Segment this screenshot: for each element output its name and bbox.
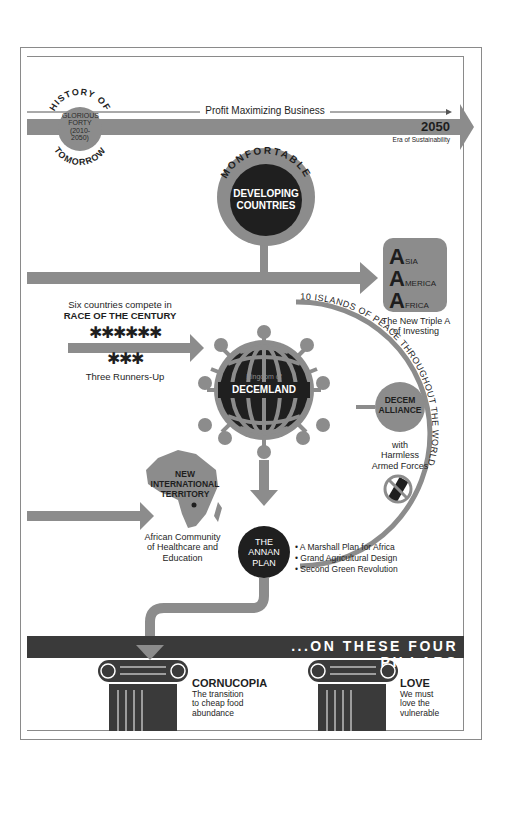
caption-line: The New Triple A xyxy=(375,316,457,326)
annan-connector xyxy=(150,578,264,645)
triple-a-letter: A xyxy=(389,288,405,313)
pillar-title: CORNUCOPIA xyxy=(192,677,267,690)
pillar-icon-love xyxy=(308,660,398,731)
annan-line: PLAN xyxy=(240,558,288,568)
annan-line: ANNAN xyxy=(240,547,288,557)
profit-label: Profit Maximizing Business xyxy=(200,105,330,117)
annan-bullet: • Second Green Revolution xyxy=(295,564,398,575)
alliance-title: DECEM ALLIANCE xyxy=(375,396,425,416)
pillar-love: LOVE We must love the vulnerable xyxy=(400,677,439,719)
annan-line: THE xyxy=(240,537,288,547)
runners-up-caption: Three Runners-Up xyxy=(80,372,170,383)
race-title: Six countries compete in RACE OF THE CEN… xyxy=(55,300,185,322)
annan-bullets: • A Marshall Plan for Africa • Grand Agr… xyxy=(295,542,398,575)
caption-line: with xyxy=(360,440,440,450)
africa-arrow xyxy=(27,502,154,530)
caption-line: of Healthcare and xyxy=(135,542,230,552)
badge-center-line: GLORIOUS xyxy=(62,112,98,119)
caption-line: Harmless xyxy=(360,450,440,460)
triple-a-word: MERICA xyxy=(405,279,436,288)
alliance-line: ALLIANCE xyxy=(375,406,425,416)
triple-a-row: AFRICA xyxy=(389,288,447,310)
caption-line: Armed Forces xyxy=(360,461,440,471)
badge-center-line: 2050) xyxy=(62,134,98,141)
glorious-forty-text: GLORIOUS FORTY (2010- 2050) xyxy=(62,112,98,141)
annan-title: THE ANNAN PLAN xyxy=(240,537,288,568)
developing-title-line: DEVELOPING xyxy=(226,188,306,200)
africa-title: NEW INTERNATIONAL TERRITORY xyxy=(140,470,230,499)
annan-bullet: • Grand Agricultural Design xyxy=(295,553,398,564)
pillar-desc: vulnerable xyxy=(400,709,439,719)
developing-node: MONFORTABLE xyxy=(217,145,315,280)
alliance-caption: with Harmless Armed Forces xyxy=(360,440,440,471)
pillar-icon-cornucopia xyxy=(98,660,188,731)
pillar-cornucopia: CORNUCOPIA The transition to cheap food … xyxy=(192,677,267,719)
triple-a-word: SIA xyxy=(405,257,418,266)
race-line2: RACE OF THE CENTURY xyxy=(55,311,185,322)
middle-arrow xyxy=(27,262,378,294)
runners-up-icon: ✱✱✱ xyxy=(90,350,160,368)
pillar-desc: abundance xyxy=(192,709,267,719)
triple-a-word: FRICA xyxy=(405,301,429,310)
decemland-title: DECEMLAND xyxy=(218,384,310,396)
africa-title-line: TERRITORY xyxy=(140,490,230,500)
developing-title: DEVELOPING COUNTRIES xyxy=(226,188,306,211)
triple-a-list: ASIA AMERICA AFRICA xyxy=(389,244,447,310)
caption-line: Education xyxy=(135,553,230,563)
triple-a-row: AMERICA xyxy=(389,266,447,288)
no-weapons-icon xyxy=(385,476,411,503)
annan-bullet: • A Marshall Plan for Africa xyxy=(295,542,398,553)
africa-caption: African Community of Healthcare and Educ… xyxy=(135,532,230,563)
end-year: 2050 xyxy=(400,120,450,135)
pillar-title: LOVE xyxy=(400,677,439,690)
badge-center-line: (2010- xyxy=(62,127,98,134)
badge-center-line: FORTY xyxy=(62,119,98,126)
triple-a-caption: The New Triple A of Investing xyxy=(375,316,457,337)
down-arrow xyxy=(250,460,278,506)
pillars-banner-text: ...ON THESE FOUR PILLARS xyxy=(220,638,458,670)
islands-arc xyxy=(296,302,430,566)
triple-a-row: ASIA xyxy=(389,244,447,266)
caption-line: African Community xyxy=(135,532,230,542)
caption-line: of Investing xyxy=(375,326,457,336)
kingdom-label: Kingdom of xyxy=(224,373,304,381)
developing-title-line: COUNTRIES xyxy=(226,200,306,212)
runners-icon: ✱✱✱✱✱✱ xyxy=(65,324,185,342)
end-caption: Era of Sustainability xyxy=(370,136,450,143)
